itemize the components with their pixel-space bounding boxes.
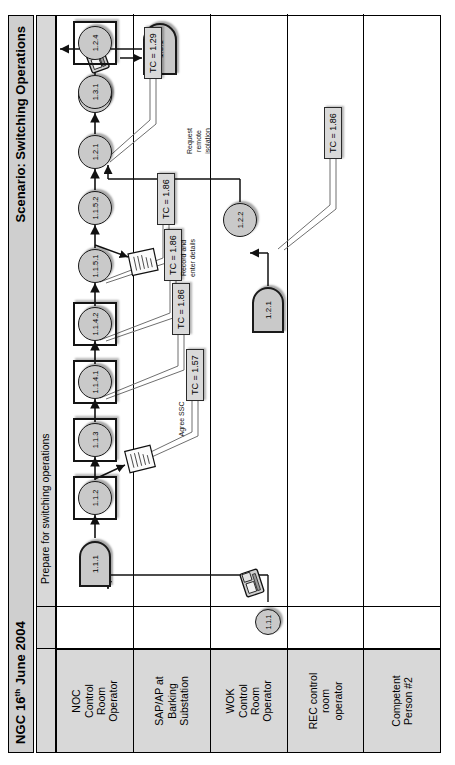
task-node-1-2-2[interactable]: 1.2.2 xyxy=(223,203,257,237)
lane-label-rec: REC control room operator xyxy=(307,670,344,733)
tc-label-1-57: TC = 1.57 xyxy=(186,349,204,401)
diagram-sheet: NGC 16th June 2004 Scenario: Switching O… xyxy=(0,0,455,765)
phase-divider-2 xyxy=(36,606,56,607)
lane-divider-left xyxy=(56,648,441,649)
task-node-1-1-2[interactable]: 1.1.2 xyxy=(78,481,112,515)
task-node-1-1-5-1[interactable]: 1.1.5.1 xyxy=(78,249,112,283)
lane-label-cp2: Competent Person #2 xyxy=(390,672,415,729)
page-title: Scenario: Switching Operations xyxy=(13,26,28,222)
lane-label-sap: SAP/AP at Barking Substation xyxy=(153,673,190,729)
rotated-canvas: NGC 16th June 2004 Scenario: Switching O… xyxy=(0,0,455,765)
tc-label-1-86-a: TC = 1.86 xyxy=(172,283,190,335)
node-label: 1.2.2 xyxy=(223,203,257,237)
phase-divider-1 xyxy=(36,648,56,649)
node-label: 1.1.1 xyxy=(255,609,281,635)
node-boundary xyxy=(73,360,117,404)
header-date-suffix: June 2004 xyxy=(13,621,28,689)
tc-label-1-86-c: TC = 1.86 xyxy=(157,173,175,225)
annotation-agree-ssc: Agree SSC xyxy=(178,389,187,449)
task-node-1-2-1-noc[interactable]: 1.2.1 xyxy=(78,135,112,169)
node-boundary xyxy=(73,302,117,346)
node-label: 1.3.1 xyxy=(78,75,112,109)
swimlane-cp2: Competent Person #2 xyxy=(364,14,440,752)
node-label: 1.1.1 xyxy=(79,541,111,587)
phase-band: Prepare for switching operations xyxy=(36,15,56,753)
task-node-1-1-5-2[interactable]: 1.1.5.2 xyxy=(78,191,112,225)
lane-header-cp2: Competent Person #2 xyxy=(364,648,440,752)
lane-header-sap: SAP/AP at Barking Substation xyxy=(134,648,210,752)
annotation-record-details: Record and enter details xyxy=(180,227,198,289)
node-label: 1.1.5.1 xyxy=(78,249,112,283)
header-date-prefix: NGC 16 xyxy=(13,696,28,744)
phase-label: Prepare for switching operations xyxy=(39,433,51,584)
swimlane-wok: WOK Control Room Operator xyxy=(211,14,288,752)
lane-divider-body xyxy=(56,606,441,607)
node-label: 1.2.1 xyxy=(252,287,284,333)
task-node-1-1-4-2[interactable]: 1.1.4.2 xyxy=(78,307,112,341)
task-node-1-2-1-wok[interactable]: 1.2.1 xyxy=(252,287,284,333)
header-date: NGC 16th June 2004 xyxy=(13,621,28,744)
task-node-1-1-4-1[interactable]: 1.1.4.1 xyxy=(78,365,112,399)
task-node-1-3-1-noc[interactable]: 1.3.1 xyxy=(78,75,112,109)
lane-header-wok: WOK Control Room Operator xyxy=(211,648,287,752)
lane-header-rec: REC control room operator xyxy=(288,648,363,752)
node-boundary xyxy=(73,21,117,65)
node-boundary xyxy=(73,418,117,462)
node-label: 1.2.1 xyxy=(78,135,112,169)
task-node-1-1-1-noc[interactable]: 1.1.1 xyxy=(79,541,111,587)
lane-header-noc: NOC Control Room Operator xyxy=(57,648,133,752)
diagram-stage: NGC 16th June 2004 Scenario: Switching O… xyxy=(0,0,455,765)
tc-label-1-29: TC = 1.29 xyxy=(144,27,162,79)
task-node-1-2-4[interactable]: 1.2.4 xyxy=(78,26,112,60)
node-boundary xyxy=(73,476,117,520)
annotation-request-remote-isolation: Request remote isolation xyxy=(186,115,212,167)
diagram-header: NGC 16th June 2004 Scenario: Switching O… xyxy=(8,15,34,753)
header-date-ordinal: th xyxy=(13,689,22,697)
lane-label-wok: WOK Control Room Operator xyxy=(224,677,274,724)
lane-label-noc: NOC Control Room Operator xyxy=(70,677,120,724)
task-node-1-1-3[interactable]: 1.1.3 xyxy=(78,423,112,457)
tc-label-1-86-d: TC = 1.86 xyxy=(324,107,342,159)
node-label: 1.1.5.2 xyxy=(78,191,112,225)
lane-body-cp2 xyxy=(364,14,440,648)
task-node-1-1-1-wok[interactable]: 1.1.1 xyxy=(255,609,281,635)
